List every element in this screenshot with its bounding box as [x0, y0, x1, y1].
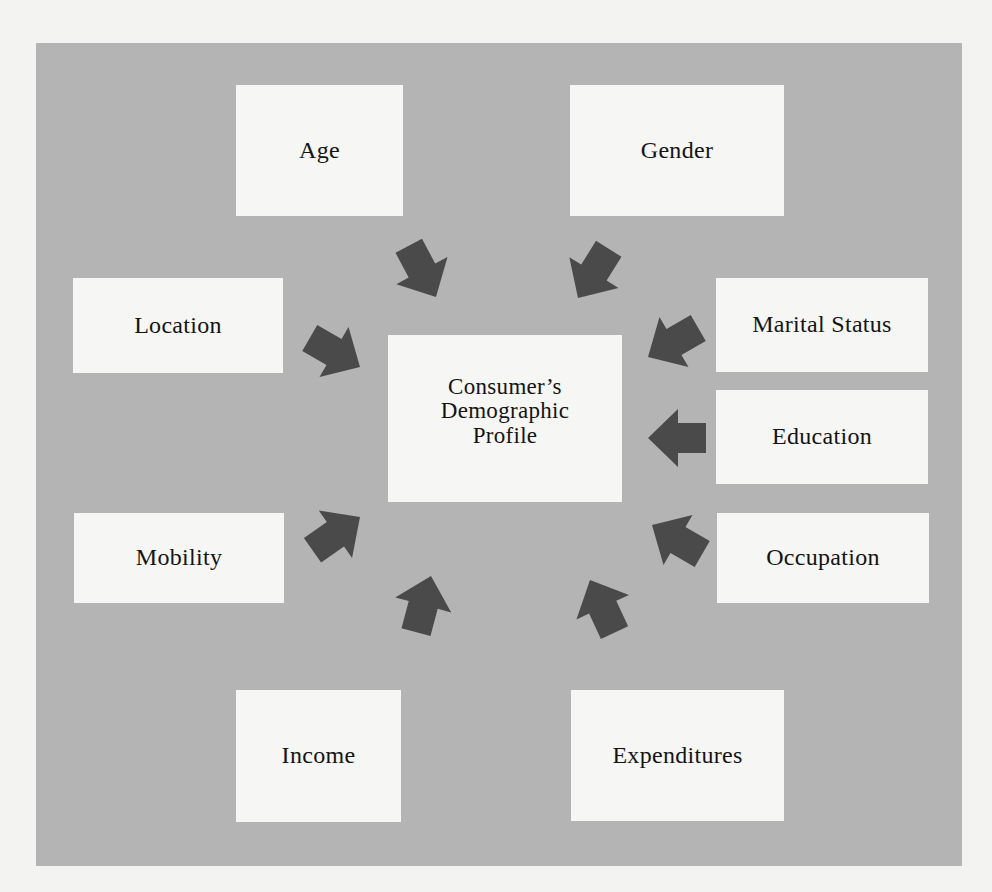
arrow-icon: [638, 500, 717, 579]
arrow-icon: [296, 493, 377, 574]
arrows-layer: [0, 0, 992, 892]
arrow-icon: [388, 568, 459, 639]
arrow-icon: [648, 409, 706, 467]
arrow-icon: [553, 233, 633, 313]
arrow-icon: [383, 232, 461, 310]
arrow-icon: [295, 313, 374, 392]
arrow-icon: [564, 568, 641, 645]
arrow-icon: [634, 303, 713, 382]
